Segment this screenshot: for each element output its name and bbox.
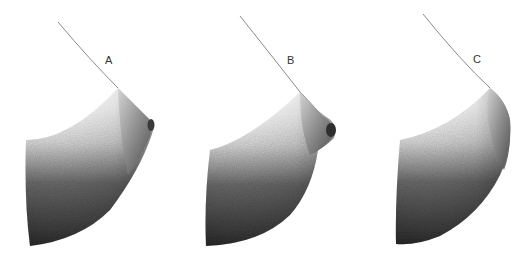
illustration-svg [0, 0, 531, 259]
figure-b [206, 16, 337, 246]
illustration-canvas: A B C [0, 0, 531, 259]
figure-c-label: C [473, 53, 481, 65]
figure-a [26, 22, 155, 246]
figure-c [396, 14, 511, 244]
figure-a-label: A [105, 54, 112, 66]
figure-b-label: B [287, 54, 294, 66]
figure-c-chest-line [423, 14, 490, 88]
figure-b-nipple [326, 123, 336, 137]
figure-a-nipple [148, 119, 155, 131]
